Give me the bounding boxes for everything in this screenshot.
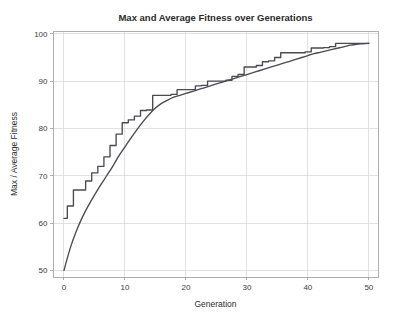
y-tick-label: 100 (34, 30, 48, 39)
y-tick-label: 60 (39, 219, 48, 228)
x-tick-label: 20 (181, 283, 190, 292)
y-tick-label: 50 (39, 266, 48, 275)
fitness-line-chart: 506070809010001020304050 Max and Average… (0, 0, 404, 325)
y-axis-label: Max / Average Fitness (9, 112, 19, 196)
x-tick-label: 10 (120, 283, 129, 292)
plot-background (53, 31, 378, 277)
x-tick-label: 50 (364, 283, 373, 292)
x-tick-label: 40 (303, 283, 312, 292)
chart-title: Max and Average Fitness over Generations (118, 12, 312, 23)
y-tick-label: 80 (39, 124, 48, 133)
y-tick-label: 70 (39, 172, 48, 181)
x-tick-label: 30 (242, 283, 251, 292)
x-tick-label: 0 (62, 283, 67, 292)
chart-figure: 506070809010001020304050 Max and Average… (0, 0, 404, 325)
y-tick-label: 90 (39, 77, 48, 86)
x-axis-label: Generation (194, 299, 236, 309)
